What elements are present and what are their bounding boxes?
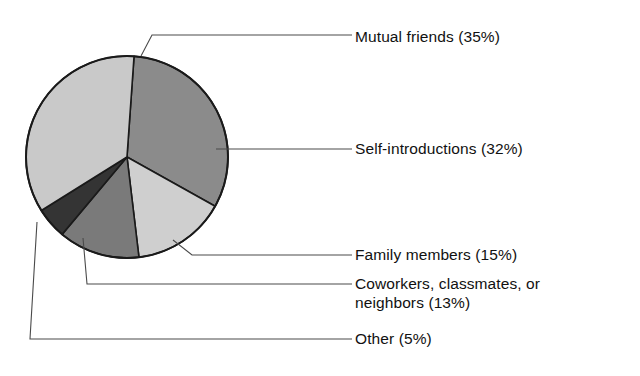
pie-label-other: Other (5%) [355, 329, 432, 348]
pie-label-coworkers-line2: neighbors (13%) [355, 294, 470, 311]
pie-slices [26, 56, 228, 258]
pie-label-coworkers-line1: Coworkers, classmates, or [355, 275, 540, 292]
pie-label-mutual-friends: Mutual friends (35%) [355, 27, 500, 46]
pie-label-family-members: Family members (15%) [355, 245, 517, 264]
pie-label-coworkers: Coworkers, classmates, orneighbors (13%) [355, 274, 605, 312]
pie-label-self-introductions: Self-introductions (32%) [355, 139, 523, 158]
pie-chart-figure: Mutual friends (35%) Self-introductions … [0, 0, 640, 376]
pie-chart-svg [0, 0, 640, 376]
leader-line-family-members [173, 240, 352, 255]
leader-line-mutual-friends [141, 35, 352, 56]
